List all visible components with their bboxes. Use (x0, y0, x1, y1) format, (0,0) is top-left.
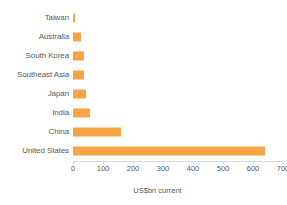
bar-row: Australia (73, 27, 283, 46)
category-label: Taiwan (45, 14, 69, 22)
bar (73, 70, 84, 79)
x-axis-tick-label: 0 (71, 165, 75, 173)
bar-row: South Korea (73, 46, 283, 65)
x-axis-tick-label: 700 (277, 165, 287, 173)
bar (73, 109, 90, 118)
x-axis-tick-label: 100 (97, 165, 110, 173)
bar (73, 147, 265, 156)
bar-row: China (73, 123, 283, 142)
bar-chart: TaiwanAustraliaSouth KoreaSoutheast Asia… (0, 0, 287, 205)
bar (73, 128, 121, 137)
x-axis-tick-label: 300 (157, 165, 170, 173)
x-axis-tick-label: 600 (247, 165, 260, 173)
bar-row: India (73, 104, 283, 123)
plot-area: TaiwanAustraliaSouth KoreaSoutheast Asia… (73, 8, 283, 161)
category-label: India (52, 109, 69, 117)
bar-row: Southeast Asia (73, 65, 283, 84)
bar (73, 13, 75, 22)
bar-row: Japan (73, 85, 283, 104)
category-label: United States (22, 147, 69, 155)
category-label: Australia (39, 33, 69, 41)
bar-row: United States (73, 142, 283, 161)
x-axis-title: US$bn current (0, 187, 287, 195)
category-label: Southeast Asia (17, 71, 69, 79)
x-axis-tick-label: 200 (127, 165, 140, 173)
category-label: Japan (48, 90, 69, 98)
bar (73, 90, 86, 99)
bar (73, 51, 84, 60)
bar-row: Taiwan (73, 8, 283, 27)
x-axis-tick-label: 400 (187, 165, 200, 173)
bar (73, 32, 81, 41)
category-label: China (49, 128, 69, 136)
x-axis-title-label: US$bn current (133, 187, 181, 195)
x-axis-tick-label: 500 (217, 165, 230, 173)
category-label: South Korea (26, 52, 69, 60)
